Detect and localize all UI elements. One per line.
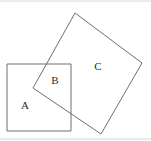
- square-a-outline: [7, 64, 71, 131]
- overlapping-squares-figure: A B C: [0, 0, 151, 141]
- region-label-b: B: [51, 74, 58, 86]
- square-c-outline: [33, 13, 142, 134]
- region-label-a: A: [21, 99, 29, 111]
- diagram-canvas: A B C: [0, 0, 151, 141]
- region-label-c: C: [94, 60, 101, 72]
